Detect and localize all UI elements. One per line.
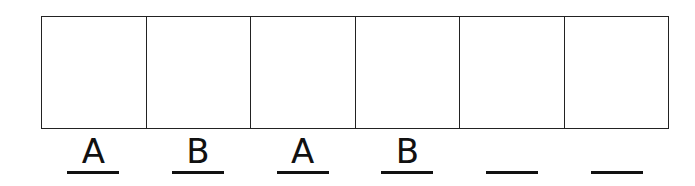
pattern-box-1 — [42, 17, 147, 128]
pattern-box-3 — [251, 17, 356, 128]
answer-underline — [277, 171, 329, 174]
answer-underline — [381, 171, 433, 174]
answer-slot-6[interactable] — [564, 133, 669, 178]
answer-label: A — [250, 133, 355, 169]
answer-slot-3: A — [250, 133, 355, 178]
answer-slot-4: B — [355, 133, 460, 178]
pattern-box-6 — [565, 17, 669, 128]
answer-row: A B A B — [41, 133, 669, 178]
answer-label: B — [355, 133, 460, 169]
answer-slot-2: B — [146, 133, 251, 178]
pattern-box-5 — [460, 17, 565, 128]
answer-slot-5[interactable] — [460, 133, 565, 178]
pattern-box-2 — [147, 17, 252, 128]
answer-label: B — [146, 133, 251, 169]
answer-label: A — [41, 133, 146, 169]
answer-blank-line[interactable] — [486, 171, 538, 174]
pattern-box-strip — [41, 16, 669, 129]
answer-slot-1: A — [41, 133, 146, 178]
answer-blank-line[interactable] — [591, 171, 643, 174]
answer-underline — [172, 171, 224, 174]
pattern-box-4 — [356, 17, 461, 128]
answer-underline — [67, 171, 119, 174]
